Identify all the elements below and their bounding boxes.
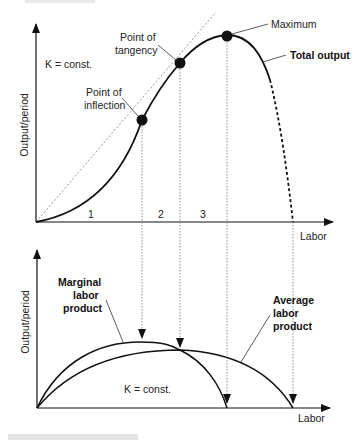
apl-label-line3: product bbox=[273, 320, 313, 332]
top-chart: Output/period Labor K = const. Maximum T… bbox=[18, 12, 350, 403]
cropped-caption-bottom bbox=[8, 434, 138, 440]
tangency-leader bbox=[158, 45, 176, 60]
mpl-label-line2: labor bbox=[73, 289, 99, 301]
bottom-chart: Output/period Labor K = const. Marginal … bbox=[19, 250, 330, 424]
inflection-label-line2: inflection bbox=[84, 99, 126, 111]
mpl-label-line1: Marginal bbox=[58, 276, 101, 288]
production-function-diagram: Output/period Labor K = const. Maximum T… bbox=[0, 0, 361, 440]
apl-label-line2: labor bbox=[273, 307, 299, 319]
apl-label-line1: Average bbox=[273, 294, 314, 306]
tangency-label-line2: tangency bbox=[115, 44, 158, 56]
tangency-label-line1: Point of bbox=[120, 31, 156, 43]
maximum-leader bbox=[232, 24, 268, 34]
top-constant-label: K = const. bbox=[45, 58, 92, 70]
inflection-label-line1: Point of bbox=[86, 86, 122, 98]
total-output-leader bbox=[263, 55, 286, 62]
total-output-curve-declining bbox=[270, 80, 293, 222]
average-labor-product-curve bbox=[37, 350, 293, 408]
stage-2-label: 2 bbox=[158, 208, 164, 220]
inflection-point bbox=[137, 115, 148, 126]
mpl-leader bbox=[106, 300, 123, 342]
top-y-axis-label: Output/period bbox=[18, 93, 30, 157]
top-x-axis-label: Labor bbox=[300, 230, 327, 242]
cropped-caption-top bbox=[25, 0, 95, 3]
stage-3-label: 3 bbox=[200, 208, 206, 220]
bottom-constant-label: K = const. bbox=[124, 383, 171, 395]
total-output-label: Total output bbox=[290, 49, 350, 61]
bottom-x-axis-label: Labor bbox=[298, 412, 325, 424]
apl-leader bbox=[241, 315, 270, 362]
tangency-point bbox=[175, 58, 186, 69]
maximum-label: Maximum bbox=[271, 18, 317, 30]
bottom-y-axis-label: Output/period bbox=[19, 290, 31, 354]
stage-1-label: 1 bbox=[88, 208, 94, 220]
maximum-point bbox=[222, 31, 233, 42]
mpl-label-line3: product bbox=[63, 302, 103, 314]
